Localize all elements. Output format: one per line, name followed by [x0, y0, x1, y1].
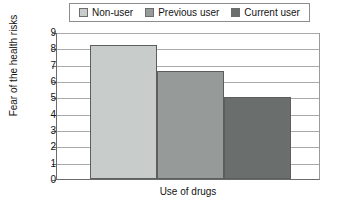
y-tick-label: 2 — [8, 142, 56, 152]
y-tick-label: 0 — [8, 175, 56, 185]
legend-swatch-previous-user — [145, 8, 154, 17]
legend-label-previous-user: Previous user — [158, 8, 219, 18]
chart-legend: Non-user Previous user Current user — [69, 3, 310, 22]
bar-series — [57, 33, 319, 179]
legend-item-non-user: Non-user — [79, 8, 133, 18]
bar-non-user — [90, 45, 157, 179]
y-tick-label: 3 — [8, 126, 56, 136]
x-axis-title: Use of drugs — [56, 186, 320, 197]
y-tick-label: 1 — [8, 159, 56, 169]
legend-item-current-user: Current user — [231, 8, 300, 18]
bar-chart: Non-user Previous user Current user 9876… — [0, 0, 337, 205]
legend-swatch-current-user — [231, 8, 240, 17]
y-axis-title: Fear of the health risks — [8, 6, 19, 126]
bar-previous-user — [157, 71, 224, 179]
plot-area — [56, 33, 320, 180]
legend-label-current-user: Current user — [244, 8, 300, 18]
legend-label-non-user: Non-user — [92, 8, 133, 18]
legend-swatch-non-user — [79, 8, 88, 17]
legend-item-previous-user: Previous user — [145, 8, 219, 18]
bar-current-user — [224, 97, 291, 179]
